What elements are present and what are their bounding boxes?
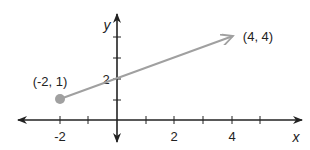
x-tick-label-4: 4 <box>228 129 235 144</box>
x-axis-label: x <box>292 129 301 145</box>
x-tick-label-2: 2 <box>170 129 177 144</box>
ray-line <box>60 36 233 99</box>
ray <box>55 36 233 104</box>
end-point-label: (4, 4) <box>243 29 273 44</box>
start-point <box>55 94 65 104</box>
x-axis: -2 2 4 x <box>18 116 302 145</box>
start-point-label: (-2, 1) <box>33 74 68 89</box>
coordinate-plane: -2 2 4 x 2 y (-2, 1) (4, 4) <box>0 0 310 150</box>
y-tick-label-2: 2 <box>102 72 109 87</box>
y-axis-label: y <box>103 17 112 33</box>
x-tick-label-neg2: -2 <box>54 129 66 144</box>
